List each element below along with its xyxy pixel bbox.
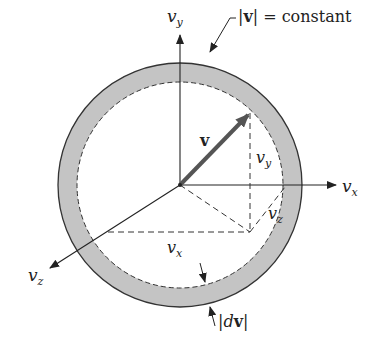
vy-component-label: vy <box>256 148 272 170</box>
velocity-vector <box>180 115 248 185</box>
dv-annotation: |dv| <box>218 312 248 331</box>
vz-axis-label: vz <box>28 265 44 288</box>
vy-axis-label: vy <box>167 6 184 29</box>
dv-outer-arrow <box>210 307 215 326</box>
constant-leader-arrow <box>210 18 236 52</box>
vx-component-label: vx <box>167 238 183 260</box>
velocity-vector-label: v <box>199 131 210 150</box>
velocity-sphere-diagram: vy vx vz v vy vz vx |v| = constant |dv| <box>0 0 386 345</box>
constant-speed-annotation: |v| = constant <box>238 7 352 26</box>
dv-inner-arrow <box>200 263 205 282</box>
vx-axis-label: vx <box>342 176 359 199</box>
